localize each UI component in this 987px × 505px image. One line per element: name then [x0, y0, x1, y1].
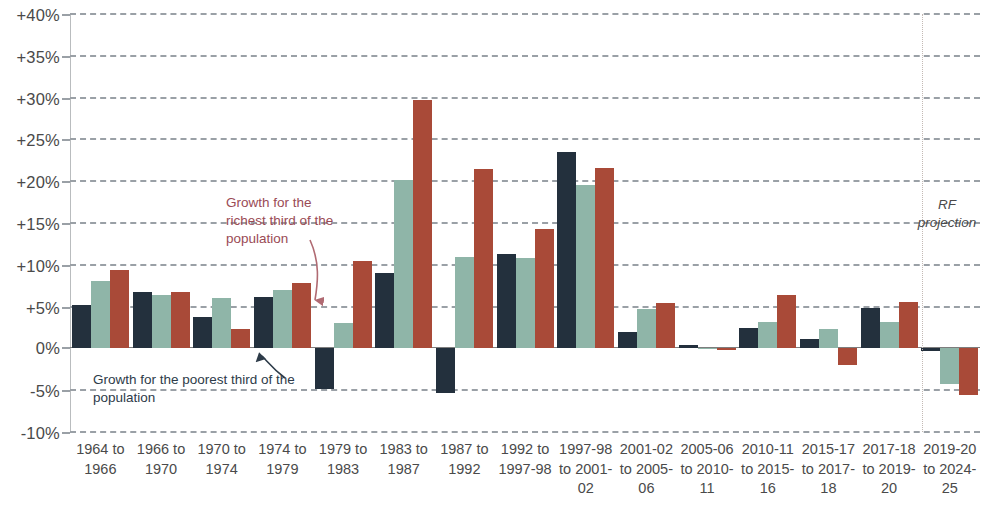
- bar-groups: [70, 14, 980, 432]
- bar-slot: [193, 14, 212, 432]
- bar-slot: [595, 14, 614, 432]
- bar-slot: [91, 14, 110, 432]
- bar-slot: [679, 14, 698, 432]
- bar-slot: [72, 14, 91, 432]
- y-axis-tick-label: +20%: [17, 173, 70, 192]
- y-axis-tick-label: 0%: [36, 339, 70, 358]
- bar-slot: [497, 14, 516, 432]
- bar: [618, 332, 637, 349]
- x-axis-tick-label: 2005-06to 2010-11: [677, 440, 738, 499]
- bar: [921, 348, 940, 351]
- bar: [698, 348, 717, 349]
- bar-slot: [557, 14, 576, 432]
- bar: [739, 328, 758, 348]
- bar: [231, 329, 250, 348]
- bar-slot: [576, 14, 595, 432]
- y-axis-tick-label: +30%: [17, 89, 70, 108]
- bar-slot: [717, 14, 736, 432]
- bar-group: [434, 14, 495, 432]
- x-axis-tick-label: 1983 to1987: [373, 440, 434, 499]
- bar-group: [677, 14, 738, 432]
- bar: [413, 100, 432, 348]
- bar: [455, 257, 474, 348]
- x-axis-tick-label: 1992 to1997-98: [495, 440, 556, 499]
- bar: [758, 322, 777, 349]
- bar-slot: [880, 14, 899, 432]
- bar: [800, 339, 819, 348]
- bar: [152, 295, 171, 349]
- y-axis-tick-label: +25%: [17, 131, 70, 150]
- x-axis-tick-label: 1966 to1970: [131, 440, 192, 499]
- bar: [375, 273, 394, 348]
- bar: [394, 180, 413, 349]
- x-axis-tick-label: 2017-18to 2019-20: [859, 440, 920, 499]
- bar-slot: [656, 14, 675, 432]
- y-axis-tick-label: -5%: [30, 382, 70, 401]
- bar: [838, 348, 857, 365]
- bar-group: [859, 14, 920, 432]
- bar: [334, 323, 353, 348]
- x-axis-tick-label: 1979 to1983: [313, 440, 374, 499]
- bar-slot: [516, 14, 535, 432]
- bar-chart: +40%+35%+30%+25%+20%+15%+10%+5%0%-5%-10%…: [0, 0, 987, 505]
- bar: [940, 348, 959, 384]
- x-axis-tick-label: 2019-20to 2024-25: [919, 440, 980, 499]
- bar-slot: [618, 14, 637, 432]
- bar: [516, 258, 535, 348]
- annotation-rf-projection: RF projection: [912, 196, 982, 231]
- bar-slot: [133, 14, 152, 432]
- annotation-poorest-third: Growth for the poorest third of the popu…: [93, 371, 298, 407]
- bar: [110, 270, 129, 349]
- x-axis-tick-label: 2015-17to 2017-18: [798, 440, 859, 499]
- bar-slot: [474, 14, 493, 432]
- bar-slot: [353, 14, 372, 432]
- bar-slot: [110, 14, 129, 432]
- x-axis-tick-label: 2010-11to 2015-16: [737, 440, 798, 499]
- bar-group: [737, 14, 798, 432]
- bar: [315, 348, 334, 389]
- bar: [777, 295, 796, 349]
- bar-slot: [152, 14, 171, 432]
- bar: [193, 317, 212, 349]
- x-axis-tick-label: 1987 to1992: [434, 440, 495, 499]
- x-axis-tick-label: 1970 to1974: [191, 440, 252, 499]
- bar-slot: [637, 14, 656, 432]
- bar-group: [373, 14, 434, 432]
- bar: [474, 169, 493, 349]
- bar: [656, 303, 675, 348]
- bar: [353, 261, 372, 348]
- bar-group: [555, 14, 616, 432]
- bar: [497, 254, 516, 348]
- bar: [133, 292, 152, 349]
- bar: [292, 283, 311, 348]
- bar-slot: [698, 14, 717, 432]
- bar: [899, 302, 918, 349]
- bar-slot: [777, 14, 796, 432]
- bar: [436, 348, 455, 392]
- bar-group: [616, 14, 677, 432]
- y-axis-tick-label: -10%: [21, 424, 70, 443]
- bar-slot: [800, 14, 819, 432]
- bar: [557, 152, 576, 348]
- bar: [535, 229, 554, 349]
- y-axis-tick-label: +35%: [17, 47, 70, 66]
- bar-slot: [861, 14, 880, 432]
- y-axis-tick-label: +15%: [17, 215, 70, 234]
- y-axis-tick-label: +10%: [17, 256, 70, 275]
- bar-slot: [739, 14, 758, 432]
- x-axis-labels: 1964 to19661966 to19701970 to19741974 to…: [70, 440, 980, 499]
- bar: [679, 345, 698, 348]
- annotation-richest-third: Growth for the richest third of the popu…: [226, 194, 338, 247]
- bar: [861, 308, 880, 348]
- x-axis-tick-label: 1964 to1966: [70, 440, 131, 499]
- bar: [717, 348, 736, 350]
- bar-slot: [413, 14, 432, 432]
- bar-slot: [375, 14, 394, 432]
- bar: [171, 292, 190, 349]
- bar-slot: [394, 14, 413, 432]
- bar: [595, 168, 614, 349]
- bar: [254, 297, 273, 348]
- bar-slot: [535, 14, 554, 432]
- bar-slot: [819, 14, 838, 432]
- bar: [880, 322, 899, 349]
